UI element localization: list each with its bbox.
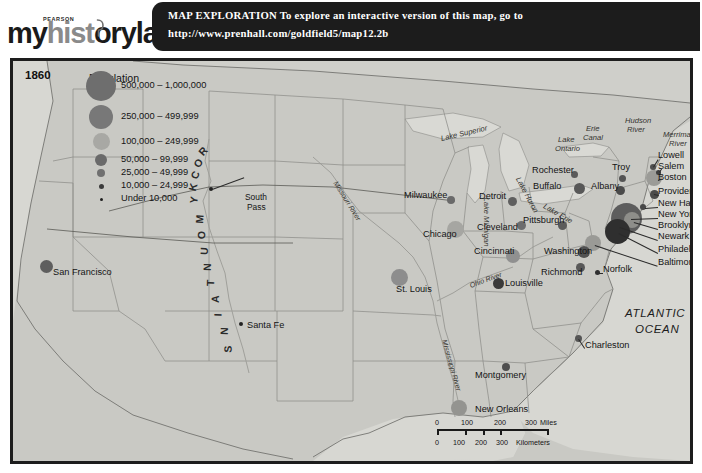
water-label-hudson: Hudson [625, 116, 651, 125]
city-dot-santa-fe[interactable] [239, 322, 243, 326]
banner-url[interactable]: http://www.prenhall.com/goldfield5/map12… [168, 27, 388, 39]
city-label-providence: Providence [658, 186, 693, 196]
magnifying-glass-icon [90, 18, 105, 38]
legend-label-2: 100,000 – 249,999 [121, 136, 199, 146]
city-label-montgomery: Montgomery [475, 370, 526, 380]
logo-my: my [7, 17, 47, 49]
water-label-merrimack: Merrimack [663, 130, 693, 139]
legend-label-6: Under 10,000 [121, 193, 177, 203]
city-dot-detroit[interactable] [508, 197, 517, 206]
scale-bar: 0 100 200 300 Miles 0 100 200 300 Kilome… [430, 416, 570, 456]
city-label-philadelphia: Philadelphia [658, 244, 693, 254]
scale-miles-unit: Miles [540, 418, 557, 427]
city-label-troy: Troy [612, 162, 630, 172]
city-label-buffalo: Buffalo [533, 181, 561, 191]
scale-bar-line [437, 429, 547, 431]
city-label-baltimore: Baltimore [658, 257, 693, 267]
water-label-canal: Canal [583, 133, 603, 142]
city-label-albany: Albany [591, 181, 619, 191]
scale-km-100: 100 [453, 438, 465, 447]
atlantic-ocean-label-line1: ATLANTIC [625, 307, 685, 319]
city-label-rochester: Rochester [532, 165, 574, 175]
city-label-san-francisco: San Francisco [53, 267, 112, 277]
rocky-mountains-letter-9: T [204, 280, 216, 287]
legend-swatch-6 [100, 198, 103, 201]
legend-swatch-0 [86, 71, 116, 101]
scale-miles-200: 200 [494, 418, 506, 427]
rocky-mountains-letter-11: I [211, 313, 223, 316]
population-legend: Population 500,000 – 1,000,000250,000 – … [75, 72, 290, 192]
city-dot-san-francisco[interactable] [40, 260, 53, 273]
rocky-mountains-letter-4: Y [187, 196, 200, 205]
rocky-mountains-letter-10: A [209, 295, 221, 303]
place-label-pass: Pass [247, 202, 266, 212]
city-label-chicago: Chicago [423, 229, 457, 239]
scale-miles-0: 0 [435, 418, 439, 427]
legend-swatch-2 [93, 133, 110, 150]
city-dot-st-louis[interactable] [391, 269, 408, 286]
map-exploration-banner: MAP EXPLORATION To explore an interactiv… [152, 2, 700, 51]
map-year-label: 1860 [25, 69, 51, 81]
banner-line-1: MAP EXPLORATION To explore an interactiv… [168, 9, 523, 21]
label-leader-line [599, 273, 603, 274]
water-label-river: River [669, 139, 687, 148]
water-label-lake-michigan: Lake Michigan [482, 198, 491, 247]
city-label-st-louis: St. Louis [396, 284, 432, 294]
legend-swatch-1 [89, 105, 113, 129]
place-label-south: South [245, 192, 267, 202]
legend-swatch-4 [97, 169, 105, 177]
scale-km-unit: Kilometers [516, 438, 550, 447]
scale-miles-300: 300 [525, 418, 537, 427]
city-dot-buffalo[interactable] [574, 183, 585, 194]
city-label-new-orleans: New Orleans [475, 404, 528, 414]
city-label-brooklyn: Brooklyn [658, 220, 693, 230]
city-label-new-york: New York [658, 209, 693, 219]
legend-label-1: 250,000 – 499,999 [121, 111, 199, 121]
rocky-mountains-letter-13: S [221, 345, 233, 352]
rocky-mountains-letter-6: O [195, 231, 207, 240]
bottom-strip [0, 465, 702, 473]
legend-label-4: 25,000 – 49,999 [121, 167, 188, 177]
logo-hist: hist [47, 17, 94, 49]
water-label-river: River [627, 125, 645, 134]
city-dot-troy[interactable] [619, 175, 626, 182]
city-dot-milwaukee[interactable] [447, 196, 455, 204]
city-label-milwaukee: Milwaukee [404, 190, 447, 200]
legend-swatch-5 [99, 184, 104, 189]
rocky-mountains-letter-12: N [218, 327, 230, 335]
map-screenshot: PEARSON myhistorylab MAP EXPLORATION To … [0, 0, 702, 473]
city-label-richmond: Richmond [541, 267, 582, 277]
city-label-washington: Washington [544, 246, 592, 256]
city-label-charleston: Charleston [585, 340, 629, 350]
city-label-boston: Boston [658, 172, 687, 182]
rocky-mountains-letter-5: M [193, 214, 206, 224]
rocky-mountains-letter-7: U [198, 247, 210, 255]
rocky-mountains-letter-8: N [201, 263, 213, 271]
atlantic-ocean-label-line2: OCEAN [635, 323, 679, 335]
water-label-erie: Erie [586, 124, 600, 133]
city-label-louisville: Louisville [505, 278, 543, 288]
legend-swatch-3 [95, 154, 107, 166]
scale-km-0: 0 [435, 438, 439, 447]
legend-label-0: 500,000 – 1,000,000 [121, 80, 206, 90]
water-label-ontario: Ontario [555, 144, 580, 153]
scale-km-300: 300 [496, 438, 508, 447]
city-label-new-haven: New Haven [658, 198, 693, 208]
city-label-cincinnati: Cincinnati [474, 246, 514, 256]
city-label-lowell: Lowell [658, 150, 684, 160]
scale-km-200: 200 [475, 438, 487, 447]
scale-miles-100: 100 [461, 418, 473, 427]
city-label-norfolk: Norfolk [603, 264, 632, 274]
myhistorylab-logo[interactable]: PEARSON myhistorylab [7, 16, 157, 50]
legend-label-3: 50,000 – 99,999 [121, 154, 188, 164]
city-dot-philadelphia[interactable] [605, 219, 630, 244]
water-label-lake: Lake [558, 135, 574, 144]
city-label-santa-fe: Santa Fe [247, 320, 284, 330]
logo-band: PEARSON myhistorylab MAP EXPLORATION To … [0, 0, 702, 56]
city-label-newark: Newark [658, 231, 689, 241]
legend-label-5: 10,000 – 24,999 [121, 180, 188, 190]
city-label-salem: Salem [658, 161, 684, 171]
map-canvas[interactable]: 1860 Population 500,000 – 1,000,000250,0… [10, 58, 693, 464]
city-dot-new-orleans[interactable] [451, 400, 467, 416]
